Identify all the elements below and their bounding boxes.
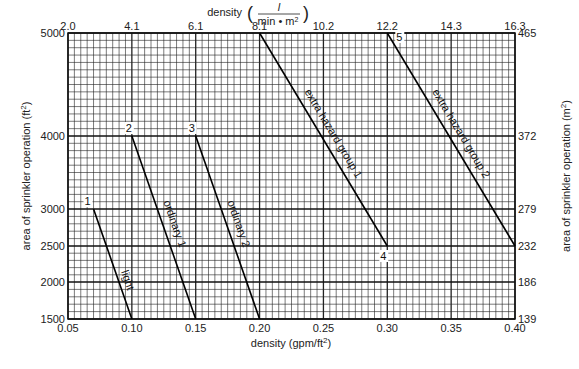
x-tick: 0.30 bbox=[377, 322, 398, 334]
y2-tick: 232 bbox=[518, 240, 536, 252]
svg-text:): ) bbox=[303, 3, 309, 23]
x2-tick: 6.1 bbox=[188, 20, 203, 32]
y-tick: 3000 bbox=[41, 203, 65, 215]
y-tick: 5000 bbox=[41, 27, 65, 39]
x2-tick: 12.2 bbox=[377, 20, 398, 32]
x-tick: 0.35 bbox=[440, 322, 461, 334]
y-axis-ticks: 500040003000250020001500 bbox=[41, 27, 65, 325]
y-axis-label: area of sprinkler operation (ft2) bbox=[19, 102, 32, 251]
y2-axis-ticks: 465372279232186139 bbox=[518, 27, 536, 325]
grid-minor bbox=[68, 33, 515, 319]
curve-point-label: 5 bbox=[396, 31, 402, 43]
y2-axis-label: area of sprinkler operation (m2) bbox=[559, 100, 572, 252]
x2-axis-label: density ( l min • m2 ) bbox=[207, 1, 309, 27]
x-tick: 0.25 bbox=[313, 322, 334, 334]
y2-tick: 139 bbox=[518, 313, 536, 325]
svg-text:min • m2: min • m2 bbox=[258, 15, 299, 27]
x-tick: 0.20 bbox=[249, 322, 270, 334]
y-tick: 2500 bbox=[41, 240, 65, 252]
curve-point-label: 3 bbox=[189, 122, 195, 134]
y2-tick: 186 bbox=[518, 276, 536, 288]
curve-point-label: 4 bbox=[380, 250, 386, 262]
curve-point-label: 2 bbox=[126, 122, 132, 134]
x-tick: 0.10 bbox=[121, 322, 142, 334]
x2-tick: 4.1 bbox=[124, 20, 139, 32]
svg-text:density: density bbox=[207, 6, 242, 18]
x-axis-label: density (gpm/ft2) bbox=[251, 336, 331, 349]
x-tick: 0.15 bbox=[185, 322, 206, 334]
svg-text:(: ( bbox=[247, 3, 253, 23]
x-axis-ticks: 0.050.100.150.200.250.300.350.40 bbox=[57, 322, 525, 334]
y2-tick: 279 bbox=[518, 203, 536, 215]
y-tick: 2000 bbox=[41, 276, 65, 288]
y-tick: 4000 bbox=[41, 130, 65, 142]
y2-tick: 372 bbox=[518, 130, 536, 142]
curve-point-label: 1 bbox=[84, 195, 90, 207]
sprinkler-density-area-chart: light1ordinary 12ordinary 23extra hazard… bbox=[0, 0, 579, 369]
curves: light1ordinary 12ordinary 23extra hazard… bbox=[84, 31, 515, 319]
y-tick: 1500 bbox=[41, 313, 65, 325]
svg-text:l: l bbox=[278, 1, 281, 13]
y2-tick: 465 bbox=[518, 27, 536, 39]
x2-tick: 14.3 bbox=[440, 20, 461, 32]
x2-tick: 10.2 bbox=[313, 20, 334, 32]
